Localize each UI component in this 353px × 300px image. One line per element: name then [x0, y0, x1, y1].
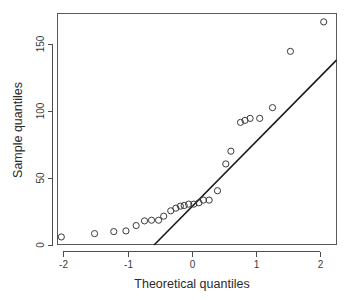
data-point: [123, 228, 129, 234]
qq-plot-canvas: 0 50 100 150 -2 -1 0 1 2 Theoretical qua…: [0, 0, 353, 300]
x-tick-label-0: 0: [190, 259, 196, 270]
data-point: [111, 229, 117, 235]
x-tick-label-neg2: -2: [59, 259, 68, 270]
x-tick-label-neg1: -1: [124, 259, 133, 270]
y-tick-label-0: 0: [35, 242, 46, 248]
plot-frame: [58, 14, 337, 245]
x-axis-title: Theoretical quantiles: [134, 277, 249, 291]
y-axis-tick-labels: 0 50 100 150: [35, 35, 46, 248]
y-tick-label-100: 100: [35, 102, 46, 119]
x-tick-label-1: 1: [254, 259, 260, 270]
data-point: [133, 222, 139, 228]
data-point: [321, 19, 327, 25]
data-point: [141, 218, 147, 224]
data-point: [91, 231, 97, 237]
data-point: [148, 217, 154, 223]
qq-plot-figure: 0 50 100 150 -2 -1 0 1 2 Theoretical qua…: [0, 0, 353, 300]
data-point: [161, 213, 167, 219]
data-point: [269, 105, 275, 111]
data-point: [287, 48, 293, 54]
y-tick-label-150: 150: [35, 35, 46, 52]
data-point: [257, 115, 263, 121]
data-points-group: [58, 19, 327, 240]
x-axis-tick-labels: -2 -1 0 1 2: [59, 259, 324, 270]
data-point: [228, 148, 234, 154]
data-point: [214, 188, 220, 194]
reference-line: [154, 60, 336, 245]
y-axis-title: Sample quantiles: [11, 82, 25, 178]
x-axis-ticks: [64, 252, 321, 257]
data-point: [58, 234, 64, 240]
data-point: [223, 161, 229, 167]
x-tick-label-2: 2: [318, 259, 324, 270]
y-axis-ticks: [48, 44, 53, 245]
y-tick-label-50: 50: [35, 172, 46, 184]
